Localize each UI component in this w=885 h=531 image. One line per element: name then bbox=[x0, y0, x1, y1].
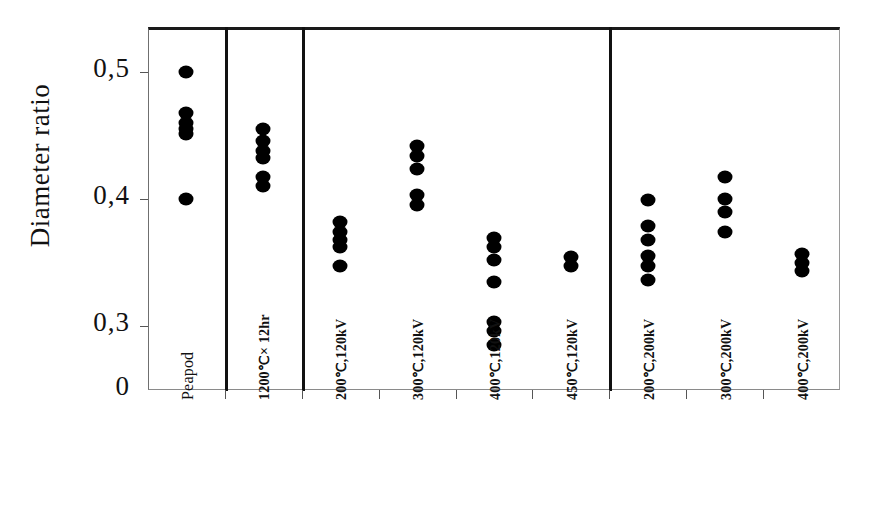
x-category-label: 450℃,120kV bbox=[564, 319, 581, 400]
data-point bbox=[717, 205, 732, 218]
x-tick-mark bbox=[686, 390, 687, 399]
data-point bbox=[640, 260, 655, 273]
data-point bbox=[794, 265, 809, 278]
x-tick-mark bbox=[302, 390, 303, 399]
data-point bbox=[487, 253, 502, 266]
data-point bbox=[563, 260, 578, 273]
data-point bbox=[256, 180, 271, 193]
data-point bbox=[179, 193, 194, 206]
data-point bbox=[487, 275, 502, 288]
x-tick-mark bbox=[456, 390, 457, 399]
data-point bbox=[410, 162, 425, 175]
x-tick-mark bbox=[379, 390, 380, 399]
data-point bbox=[410, 149, 425, 162]
data-point bbox=[256, 152, 271, 165]
x-tick-mark bbox=[763, 390, 764, 399]
data-point bbox=[717, 171, 732, 184]
group-separator bbox=[609, 27, 612, 391]
data-point bbox=[640, 219, 655, 232]
data-point bbox=[179, 128, 194, 141]
y-tick-label-04: 0,4 bbox=[48, 182, 130, 209]
x-category-label: 300℃,200kV bbox=[718, 319, 735, 400]
data-point bbox=[717, 226, 732, 239]
group-separator bbox=[302, 27, 305, 391]
x-tick-mark bbox=[532, 390, 533, 399]
data-point bbox=[640, 233, 655, 246]
x-category-label: Peapod bbox=[179, 352, 197, 400]
data-point bbox=[410, 199, 425, 212]
y-tick-label-03: 0,3 bbox=[48, 309, 130, 336]
x-tick-mark bbox=[609, 390, 610, 399]
data-point bbox=[717, 193, 732, 206]
data-point bbox=[640, 274, 655, 287]
x-category-label: 400℃,120kV bbox=[487, 319, 504, 400]
data-point bbox=[487, 241, 502, 254]
y-tick-label-0: 0 bbox=[58, 373, 130, 400]
data-point bbox=[333, 241, 348, 254]
x-category-label: 1200℃× 12hr bbox=[256, 314, 273, 400]
x-category-label: 300℃,120kV bbox=[410, 319, 427, 400]
y-tick-label-05: 0,5 bbox=[48, 55, 130, 82]
group-separator bbox=[225, 27, 228, 391]
x-tick-mark bbox=[225, 390, 226, 399]
x-category-label: 200℃,120kV bbox=[333, 319, 350, 400]
data-point bbox=[333, 260, 348, 273]
data-point bbox=[640, 194, 655, 207]
x-category-label: 400℃,200kV bbox=[795, 319, 812, 400]
x-category-label: 200℃,200kV bbox=[641, 319, 658, 400]
data-point bbox=[179, 66, 194, 79]
dot-plot-chart: Diameter ratio 0,50,40,30 Peapod1200℃× 1… bbox=[0, 0, 885, 531]
